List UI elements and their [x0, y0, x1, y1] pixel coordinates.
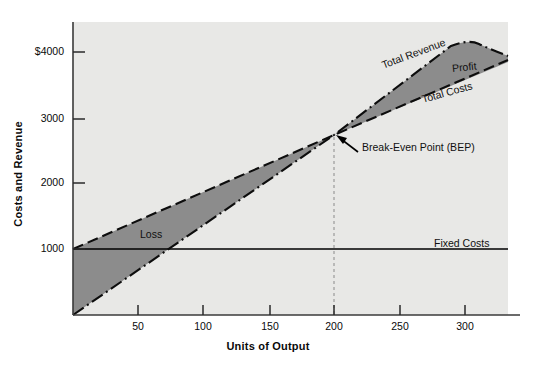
- annotation-break-even-point: Break-Even Point (BEP): [362, 141, 475, 153]
- y-tick-label-2000: 2000: [8, 176, 64, 188]
- x-tick-label-150: 150: [245, 320, 295, 332]
- chart-plot-area: [0, 0, 537, 367]
- x-tick-label-200: 200: [309, 320, 359, 332]
- series-label-fixed-costs: Fixed Costs: [434, 237, 489, 249]
- region-label-loss: Loss: [140, 228, 162, 240]
- x-axis-title: Units of Output: [168, 340, 368, 352]
- y-axis-title: Costs and Revenue: [12, 114, 24, 234]
- x-tick-label-100: 100: [178, 320, 228, 332]
- y-tick-label-1000: 1000: [8, 242, 64, 254]
- region-label-profit: Profit: [451, 59, 477, 73]
- x-tick-label-300: 300: [440, 320, 490, 332]
- x-tick-label-50: 50: [113, 320, 163, 332]
- x-tick-label-250: 250: [375, 320, 425, 332]
- break-even-chart: Costs and Revenue Units of Output $4000 …: [0, 0, 537, 367]
- y-tick-label-4000: $4000: [8, 45, 64, 57]
- y-tick-label-3000: 3000: [8, 112, 64, 124]
